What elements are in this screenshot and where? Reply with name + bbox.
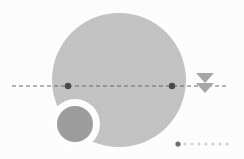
pager-dot-1[interactable]: [184, 143, 187, 146]
pager-dot-6[interactable]: [219, 143, 222, 146]
pager-dot-3[interactable]: [198, 143, 201, 146]
right-intersection-marker[interactable]: [169, 83, 175, 89]
left-intersection-marker[interactable]: [65, 83, 71, 89]
pager-dot-0-active[interactable]: [175, 141, 180, 146]
pager-dot-5[interactable]: [212, 143, 215, 146]
diagram-canvas: [0, 0, 244, 159]
pager-dot-2[interactable]: [191, 143, 194, 146]
diagram-scene: [0, 0, 244, 159]
pager-dot-7[interactable]: [226, 143, 229, 146]
pager-dot-4[interactable]: [205, 143, 208, 146]
small-gray-disc: [57, 106, 93, 142]
